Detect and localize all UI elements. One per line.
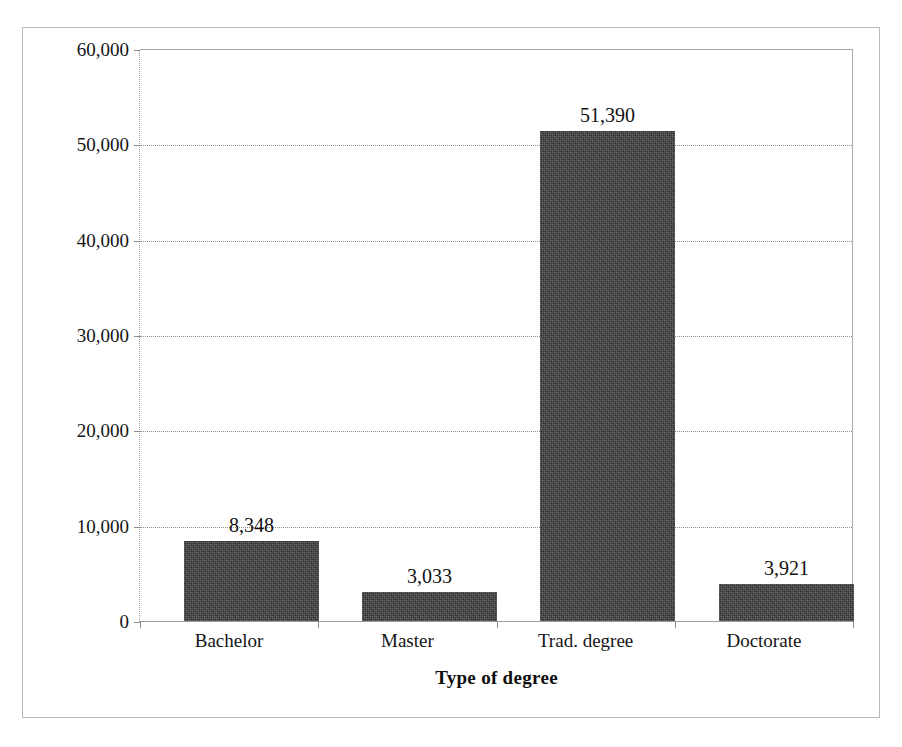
gridline-50000 bbox=[140, 145, 852, 146]
bar-value-label-trad-degree: 51,390 bbox=[580, 104, 635, 127]
x-tick-label-bachelor: Bachelor bbox=[195, 630, 264, 652]
chart-frame: Number of respondents Type of degree 60,… bbox=[22, 27, 880, 718]
bar-master[interactable] bbox=[362, 592, 497, 621]
cropped-caption-sliver: partially cropped caption line above cha… bbox=[0, 0, 902, 12]
bar-doctorate[interactable] bbox=[719, 584, 854, 621]
x-tick-3 bbox=[675, 621, 676, 628]
x-tick-label-doctorate: Doctorate bbox=[726, 630, 801, 652]
y-tick-label-50000: 50,000 bbox=[77, 134, 129, 156]
y-tick-10000 bbox=[134, 527, 140, 528]
bar-value-label-doctorate: 3,921 bbox=[764, 557, 809, 580]
y-tick-label-20000: 20,000 bbox=[77, 420, 129, 442]
y-tick-50000 bbox=[134, 145, 140, 146]
gridline-20000 bbox=[140, 431, 852, 432]
y-tick-30000 bbox=[134, 336, 140, 337]
x-tick-4 bbox=[853, 621, 854, 628]
y-tick-60000 bbox=[134, 50, 140, 51]
x-tick-2 bbox=[497, 621, 498, 628]
y-tick-label-60000: 60,000 bbox=[77, 39, 129, 61]
plot-area: 60,000 50,000 40,000 30,000 20,000 10,00… bbox=[140, 49, 853, 621]
x-tick-label-master: Master bbox=[381, 630, 434, 652]
y-tick-label-0: 0 bbox=[120, 611, 130, 633]
bar-value-label-master: 3,033 bbox=[407, 565, 452, 588]
x-tick-label-trad-degree: Trad. degree bbox=[538, 630, 633, 652]
x-tick-0 bbox=[140, 621, 141, 628]
chart-page: partially cropped caption line above cha… bbox=[0, 0, 902, 747]
gridline-40000 bbox=[140, 241, 852, 242]
gridline-30000 bbox=[140, 336, 852, 337]
bar-bachelor[interactable] bbox=[184, 541, 319, 621]
y-axis-title: Number of respondents bbox=[53, 0, 77, 73]
y-tick-label-40000: 40,000 bbox=[77, 230, 129, 252]
x-tick-1 bbox=[318, 621, 319, 628]
y-tick-label-10000: 10,000 bbox=[77, 516, 129, 538]
y-tick-label-30000: 30,000 bbox=[77, 325, 129, 347]
y-tick-20000 bbox=[134, 431, 140, 432]
x-axis-title: Type of degree bbox=[140, 667, 853, 689]
bar-value-label-bachelor: 8,348 bbox=[229, 514, 274, 537]
bar-trad-degree[interactable] bbox=[540, 131, 675, 621]
y-tick-40000 bbox=[134, 241, 140, 242]
